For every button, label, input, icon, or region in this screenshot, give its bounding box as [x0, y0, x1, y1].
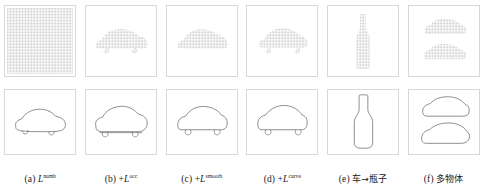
dot-grid-bottle: [328, 6, 398, 76]
cell-f-bottom: [403, 82, 484, 164]
dot-grid-car: [247, 6, 317, 76]
dot-grid-car: [167, 6, 237, 76]
cell-b-bottom: [81, 82, 162, 164]
outline-bottle: [328, 90, 398, 154]
cell-e-top: [323, 0, 404, 82]
panel-d-bottom: [246, 89, 318, 155]
caption-e-index: (e): [339, 174, 350, 184]
caption-d-superscript: curve: [288, 173, 300, 179]
outline-car-rough: [5, 90, 75, 154]
caption-c-superscript: smooth: [206, 173, 222, 179]
panel-a-bottom: [4, 89, 76, 155]
panel-b-bottom: [85, 89, 157, 155]
outline-car-rough: [86, 90, 156, 154]
outline-car-smooth: [247, 90, 317, 154]
caption-b-index: (b): [105, 174, 116, 184]
panel-d-top: [246, 5, 318, 77]
dot-grid-two-cars: [409, 6, 479, 76]
dot-grid-full-field: [5, 6, 75, 76]
panel-c-top: [166, 5, 238, 77]
panel-a-top: [4, 5, 76, 77]
cell-c-top: [161, 0, 242, 82]
cell-a-bottom: [0, 82, 81, 164]
outline-car-smooth: [167, 90, 237, 154]
cell-f-top: [403, 0, 484, 82]
caption-a-index: (a): [25, 174, 36, 184]
caption-e: (e) 车→瓶子: [323, 172, 404, 185]
caption-b-superscript: occ: [129, 173, 137, 179]
cell-c-bottom: [161, 82, 242, 164]
dot-grid-car: [86, 6, 156, 76]
caption-a: (a) Lnumb: [0, 173, 81, 184]
caption-b: (b) +Locc: [81, 173, 162, 184]
caption-c-index: (c): [181, 174, 192, 184]
panel-e-bottom: [327, 89, 399, 155]
panel-f-top: [408, 5, 480, 77]
cell-d-top: [242, 0, 323, 82]
caption-f-index: (f): [424, 174, 434, 184]
caption-f: (f) 多物体: [403, 172, 484, 185]
panel-b-top: [85, 5, 157, 77]
caption-a-superscript: numb: [43, 173, 56, 179]
cell-b-top: [81, 0, 162, 82]
panel-grid: [0, 0, 484, 163]
cell-e-bottom: [323, 82, 404, 164]
panel-f-bottom: [408, 89, 480, 155]
panel-c-bottom: [166, 89, 238, 155]
cell-a-top: [0, 0, 81, 82]
caption-d: (d) +Lcurve: [242, 173, 323, 184]
caption-d-index: (d): [264, 174, 275, 184]
caption-c: (c) +Lsmooth: [161, 173, 242, 184]
outline-two-cars: [409, 90, 479, 154]
caption-e-label: 车→瓶子: [352, 174, 387, 184]
panel-e-top: [327, 5, 399, 77]
cell-d-bottom: [242, 82, 323, 164]
caption-row: (a) Lnumb (b) +Locc (c) +Lsmooth (d) +Lc…: [0, 163, 484, 194]
figure-panel-grid: (a) Lnumb (b) +Locc (c) +Lsmooth (d) +Lc…: [0, 0, 484, 194]
caption-f-label: 多物体: [436, 174, 463, 184]
